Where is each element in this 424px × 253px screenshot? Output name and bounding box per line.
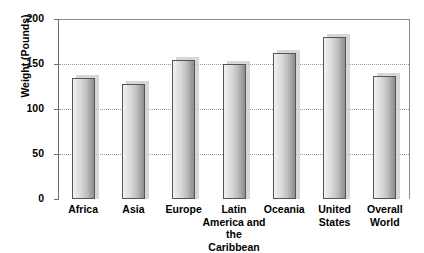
- chart-frame-right: [409, 19, 410, 199]
- y-tick-label-50: 50: [0, 147, 44, 159]
- bar-asia[interactable]: [122, 84, 145, 199]
- bar-europe[interactable]: [172, 60, 195, 200]
- category-label-overall-world: Overall World: [352, 203, 418, 228]
- bar-overall-world[interactable]: [373, 76, 396, 199]
- chart-frame-top: [58, 19, 410, 20]
- plot-area: 050100150200: [58, 19, 410, 199]
- tick-mark-0: [54, 199, 58, 200]
- bar-africa[interactable]: [72, 78, 95, 200]
- y-tick-label-0: 0: [0, 192, 44, 204]
- tick-mark-100: [54, 109, 58, 110]
- x-axis-category-labels: AfricaAsiaEuropeLatin America and the Ca…: [58, 203, 410, 247]
- tick-mark-50: [54, 154, 58, 155]
- y-tick-label-200: 200: [0, 12, 44, 24]
- bar-united-states[interactable]: [323, 37, 346, 199]
- y-tick-label-150: 150: [0, 57, 44, 69]
- x-axis-line: [58, 199, 410, 200]
- y-tick-label-100: 100: [0, 102, 44, 114]
- tick-mark-150: [54, 64, 58, 65]
- bar-latin-america-and-the-caribbean[interactable]: [223, 64, 246, 199]
- tick-mark-200: [54, 19, 58, 20]
- bar-oceania[interactable]: [273, 53, 296, 199]
